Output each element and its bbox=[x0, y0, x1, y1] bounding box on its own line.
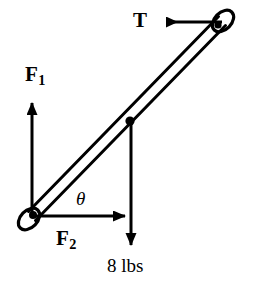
force-1-label: F1 bbox=[25, 64, 45, 85]
force-1-subscript: 1 bbox=[38, 72, 46, 88]
diagram-canvas bbox=[0, 0, 253, 289]
canvas-background bbox=[0, 0, 253, 289]
weight-label: 8 lbs bbox=[107, 256, 143, 275]
angle-theta-label: θ bbox=[76, 189, 85, 208]
force-2-symbol: F bbox=[56, 226, 69, 250]
free-body-diagram: T F1 F2 θ 8 lbs bbox=[0, 0, 253, 289]
tension-label: T bbox=[133, 10, 147, 31]
force-2-label: F2 bbox=[56, 228, 76, 249]
force-1-symbol: F bbox=[25, 62, 38, 86]
force-2-subscript: 2 bbox=[69, 236, 77, 252]
